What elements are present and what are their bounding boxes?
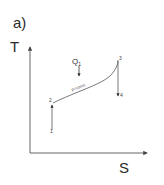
curve-label: p=const. — [71, 82, 87, 92]
heat-label: Q1 — [72, 57, 81, 67]
y-axis-label: T — [10, 38, 19, 55]
heat-input: Q1 — [72, 57, 81, 76]
point-4-label: 4 — [120, 92, 123, 98]
point-1-label: 1 — [50, 128, 53, 134]
t-s-diagram: a) T S p=const. Q1 1 2 3 4 — [0, 0, 164, 185]
x-axis-label: S — [119, 159, 129, 176]
axes: T S — [10, 38, 147, 176]
point-2-label: 2 — [49, 97, 52, 103]
panel-label: a) — [13, 14, 26, 31]
point-3-label: 3 — [119, 55, 122, 61]
process-2-3-curve — [53, 60, 118, 103]
